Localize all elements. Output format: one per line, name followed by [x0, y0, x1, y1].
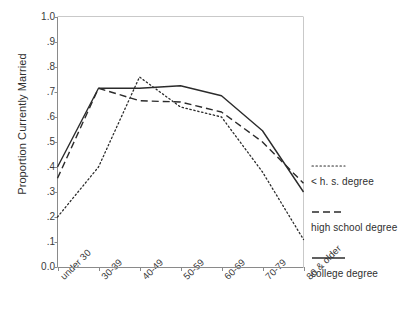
chart-figure: Proportion Currently Married 1.0 .9 .8 .…: [0, 0, 400, 329]
axis-lines: [58, 17, 304, 268]
legend-entry-less-than-hs: < h. s. degree: [311, 176, 374, 187]
data-series-layer: [58, 77, 304, 240]
legend-entry-high-school: high school degree: [311, 222, 397, 233]
legend-entry-college: college degree: [311, 268, 378, 279]
plot-area: [0, 0, 400, 329]
